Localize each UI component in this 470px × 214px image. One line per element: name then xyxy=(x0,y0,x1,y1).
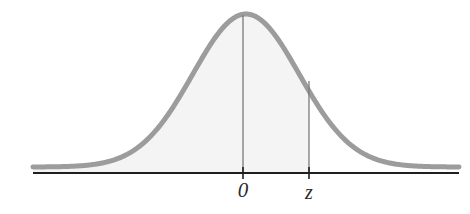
cumulative-area-shading xyxy=(33,14,309,173)
axis-tick-label-zero: 0 xyxy=(223,180,263,201)
normal-distribution-figure: 0 z xyxy=(0,0,470,214)
axis-tick-label-z: z xyxy=(289,182,329,202)
